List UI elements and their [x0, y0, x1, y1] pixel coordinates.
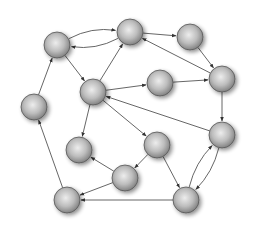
node-D: [80, 79, 106, 105]
edge-A-to-B: [69, 29, 115, 38]
node-J: [209, 122, 235, 148]
node-B: [117, 19, 143, 45]
directed-graph-diagram: [0, 0, 254, 234]
node-G: [21, 94, 47, 120]
edge-K-to-H: [91, 157, 114, 171]
edge-G-to-A: [39, 58, 53, 95]
node-K: [112, 165, 138, 191]
edge-D-to-H: [82, 105, 90, 137]
edge-D-to-I: [103, 100, 146, 136]
node-I: [144, 132, 170, 158]
node-C: [177, 24, 203, 50]
edge-A-to-D: [65, 55, 85, 81]
edge-E-to-F: [173, 80, 208, 82]
edge-B-to-A: [72, 38, 118, 47]
node-A: [44, 32, 70, 58]
node-H: [66, 137, 92, 163]
node-F: [209, 66, 235, 92]
edge-L-to-G: [39, 120, 63, 188]
node-M: [173, 187, 199, 213]
nodes-layer: [21, 19, 235, 213]
edge-M-to-J: [189, 146, 212, 187]
edge-J-to-M: [196, 148, 219, 189]
edge-I-to-K: [135, 154, 148, 168]
edge-I-to-M: [163, 156, 179, 187]
node-E: [147, 70, 173, 96]
edge-D-to-E: [106, 85, 146, 90]
edge-B-to-C: [143, 33, 176, 36]
edge-K-to-L: [80, 183, 113, 195]
node-L: [54, 187, 80, 213]
edge-D-to-B: [100, 44, 123, 81]
edge-J-to-D: [106, 96, 209, 130]
edge-C-to-F: [198, 47, 214, 68]
